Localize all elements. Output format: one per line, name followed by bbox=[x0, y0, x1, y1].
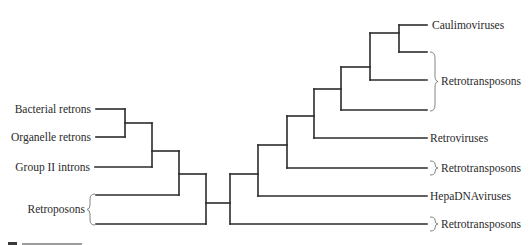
label-group-ii-introns: Group II introns bbox=[15, 161, 90, 174]
label-retroposons: Retroposons bbox=[28, 203, 86, 216]
right-clade bbox=[230, 25, 427, 224]
label-caulimoviruses: Caulimoviruses bbox=[432, 19, 505, 31]
phylogenetic-tree: Bacterial retrons Organelle retrons Grou… bbox=[0, 0, 529, 245]
brace-retrotransposons-2 bbox=[430, 161, 438, 175]
brace-retrotransposons-3 bbox=[430, 217, 438, 231]
left-clade bbox=[95, 109, 230, 224]
label-organelle-retrons: Organelle retrons bbox=[11, 131, 91, 144]
brace-retroposons bbox=[87, 194, 95, 225]
label-retroviruses: Retroviruses bbox=[430, 132, 489, 144]
brace-retrotransposons-1 bbox=[430, 52, 438, 111]
label-retrotransposons-2: Retrotransposons bbox=[441, 162, 521, 175]
label-hepadnaviruses: HepaDNAviruses bbox=[430, 190, 511, 203]
label-retrotransposons-3: Retrotransposons bbox=[441, 218, 521, 231]
label-retrotransposons-1: Retrotransposons bbox=[441, 75, 521, 88]
label-bacterial-retrons: Bacterial retrons bbox=[15, 103, 92, 115]
